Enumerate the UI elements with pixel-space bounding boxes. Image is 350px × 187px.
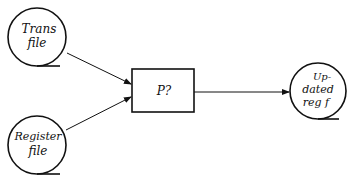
register-file-label-line1: Register [13,130,62,143]
updated-register-file-node: Up- dated reg f [290,63,346,119]
process-label: P? [156,84,172,98]
data-flow-diagram: Trans file Register file P? Up- dated re… [0,0,350,187]
updated-file-label-line3: reg f [303,96,331,109]
updated-file-label-line1: Up- [313,71,332,82]
trans-file-node: Trans file [8,8,66,66]
edge-trans-to-process [67,53,131,84]
register-file-node: Register file [8,116,66,174]
edge-register-to-process [66,97,131,130]
trans-file-label-line2: file [27,36,47,50]
updated-file-label-line2: dated [302,83,334,96]
process-node: P? [132,69,194,112]
register-file-label-line2: file [28,144,48,158]
trans-file-label-line1: Trans [22,22,57,36]
